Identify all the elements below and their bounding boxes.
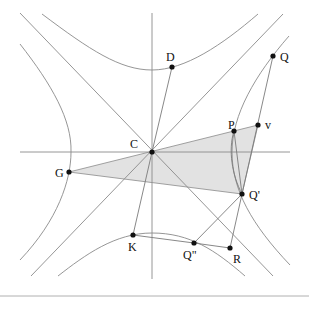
point-R: [227, 245, 232, 250]
conjugate-top-branch: [42, 14, 258, 70]
point-K: [130, 232, 135, 237]
point-C: [149, 149, 154, 154]
conjugate-bottom-branch: [58, 233, 245, 276]
label-R: R: [233, 252, 241, 266]
point-G: [66, 169, 71, 174]
shaded-triangle: [69, 125, 258, 194]
label-C: C: [130, 137, 138, 151]
point-v: [255, 122, 260, 127]
hyperbola-diagram: C D Q P v G Q' K Q" R: [0, 0, 309, 309]
segment-Qprime-R: [230, 194, 242, 248]
segment-K-Qdouble: [133, 235, 194, 243]
segment-Qdouble-R: [194, 243, 230, 248]
point-Q: [270, 53, 275, 58]
point-Qdouble: [191, 240, 196, 245]
label-G: G: [55, 166, 64, 180]
label-P: P: [228, 118, 235, 132]
label-K: K: [128, 240, 137, 254]
point-D: [169, 64, 174, 69]
label-v: v: [265, 118, 271, 132]
label-Qprime: Q': [249, 188, 260, 202]
label-Qdouble: Q": [183, 248, 197, 262]
label-Q: Q: [280, 50, 289, 64]
label-D: D: [166, 50, 175, 64]
point-Qprime: [239, 191, 244, 196]
